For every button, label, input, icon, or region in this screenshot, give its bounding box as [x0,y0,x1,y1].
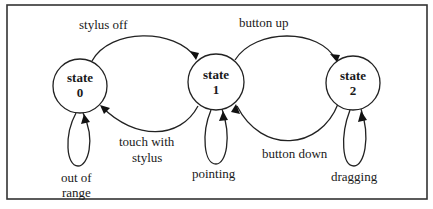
arrowhead-icon [81,114,90,124]
label-stylus-off: stylus off [79,17,128,32]
self-loop-out-of-range: out of range [61,113,92,200]
label-stylus: stylus [132,150,162,165]
state-0-node: state 0 [53,59,107,113]
state-1-label: state [203,67,229,82]
state-0-number: 0 [77,85,84,100]
label-button-down: button down [262,146,328,161]
self-loop-pointing: pointing [192,109,236,181]
transition-touch-with-stylus: touch with stylus [100,105,198,165]
state-1-number: 1 [213,82,220,97]
arrowhead-icon [219,111,228,121]
state-1-node: state 1 [188,54,244,110]
label-button-up: button up [239,15,288,30]
state-0-label: state [67,70,93,85]
state-2-node: state 2 [326,56,380,110]
label-touch-with: touch with [119,134,175,149]
label-pointing: pointing [192,166,236,181]
transition-stylus-off: stylus off [79,17,199,61]
self-loop-dragging: dragging [331,109,378,184]
state-diagram: stylus off touch with stylus button up b… [0,0,433,209]
label-range: range [62,185,91,200]
transition-button-up: button up [235,15,340,62]
label-dragging: dragging [331,169,378,184]
state-2-label: state [340,68,366,83]
state-2-number: 2 [350,83,357,98]
transition-button-down: button down [231,104,338,161]
label-out-of: out of [61,170,92,185]
arrowhead-icon [190,51,199,60]
